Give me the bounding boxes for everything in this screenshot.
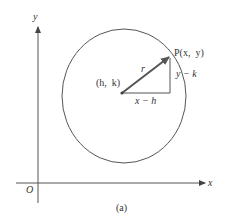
radius-arrow [122, 57, 169, 93]
origin-label: O [26, 184, 33, 195]
horizontal-leg-label: x − h [134, 95, 156, 106]
x-axis-label: x [207, 177, 213, 188]
y-axis-label: y [32, 11, 38, 22]
circle [62, 29, 186, 163]
figure-caption: (a) [116, 202, 127, 214]
center-label: (h, k) [96, 77, 120, 89]
center-point [120, 91, 123, 94]
radius-label: r [141, 63, 145, 74]
vertical-leg-label: y − k [175, 68, 197, 79]
point-label: P(x, y) [174, 47, 204, 59]
circle-equation-diagram: y x O (h, k) r P(x, y) y − k x − h (a) [0, 0, 229, 222]
